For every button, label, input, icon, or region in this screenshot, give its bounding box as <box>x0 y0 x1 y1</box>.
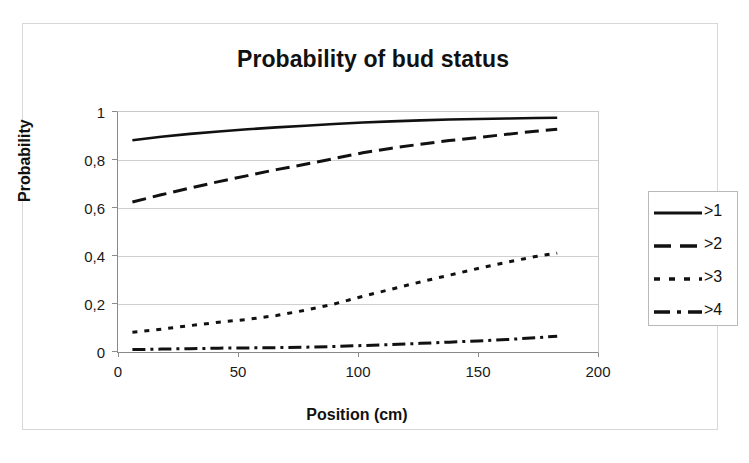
y-axis-title: Probability <box>16 119 34 202</box>
chart-legend: >1 >2 >3 >4 <box>648 191 738 326</box>
legend-label-gt1: >1 <box>704 203 722 219</box>
y-tick-label-0: 0 <box>61 345 105 360</box>
y-tick-label-0.4: 0,4 <box>61 249 105 264</box>
x-tick-label-200: 200 <box>573 364 623 379</box>
legend-label-gt2: >2 <box>704 236 722 252</box>
series-plot <box>118 112 598 352</box>
legend-item-gt3[interactable]: >3 <box>649 264 739 290</box>
legend-label-gt3: >3 <box>704 269 722 285</box>
legend-item-gt1[interactable]: >1 <box>649 198 739 224</box>
series-line-gt4 <box>132 336 557 349</box>
legend-swatch-gt1 <box>653 205 703 217</box>
series-line-gt3 <box>132 253 557 332</box>
x-tick-label-50: 50 <box>213 364 263 379</box>
plot-area <box>117 111 599 353</box>
x-tick-label-100: 100 <box>333 364 383 379</box>
x-axis-title: Position (cm) <box>117 406 597 424</box>
legend-item-gt2[interactable]: >2 <box>649 231 739 257</box>
y-tick-label-0.2: 0,2 <box>61 297 105 312</box>
figure-frame: Probability of bud status Probability Po… <box>22 23 718 430</box>
series-line-gt2 <box>132 129 557 202</box>
legend-swatch-gt3 <box>653 271 703 283</box>
legend-label-gt4: >4 <box>704 302 722 318</box>
y-tick-label-0.6: 0,6 <box>61 201 105 216</box>
legend-item-gt4[interactable]: >4 <box>649 297 739 323</box>
y-tick-label-1: 1 <box>61 105 105 120</box>
legend-swatch-gt2 <box>653 238 703 250</box>
legend-swatch-gt4 <box>653 304 703 316</box>
x-tick-label-0: 0 <box>93 364 143 379</box>
x-tick-label-150: 150 <box>453 364 503 379</box>
chart-title: Probability of bud status <box>123 46 623 73</box>
y-tick-label-0.8: 0,8 <box>61 153 105 168</box>
